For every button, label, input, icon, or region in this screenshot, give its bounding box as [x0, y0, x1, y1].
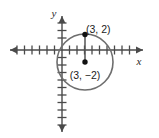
x-axis-left-arrow	[10, 47, 17, 54]
point-on-circle-label: (3, 2)	[86, 23, 111, 35]
figure-root: x y	[0, 0, 159, 138]
x-axis-group: x	[10, 46, 143, 68]
x-axis-right-arrow	[136, 47, 143, 54]
y-axis-down-arrow	[59, 125, 66, 132]
center-point-marker	[82, 59, 87, 64]
coordinate-plane-graph: x y	[0, 0, 159, 138]
x-axis-label: x	[136, 55, 142, 67]
y-axis-label: y	[51, 7, 57, 19]
center-point-label: (3, −2)	[70, 69, 101, 81]
y-axis-up-arrow	[59, 16, 66, 23]
